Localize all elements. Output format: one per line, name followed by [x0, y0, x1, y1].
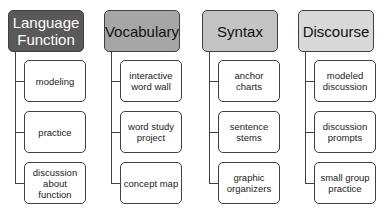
connector-branch: [305, 81, 314, 82]
connector-line: [15, 52, 16, 183]
child-node: concept map: [120, 162, 182, 204]
child-label: discussion about function: [27, 167, 83, 200]
child-node: discussion about function: [24, 162, 86, 204]
child-node: sentence stems: [218, 111, 280, 153]
child-label: sentence stems: [221, 121, 277, 143]
connector-branch: [15, 81, 24, 82]
parent-node: Vocabulary: [104, 10, 180, 52]
connector-branch: [209, 183, 218, 184]
child-label: anchor charts: [221, 70, 277, 92]
connector-branch: [305, 183, 314, 184]
connector-branch: [111, 183, 120, 184]
connector-branch: [111, 81, 120, 82]
parent-node: Discourse: [298, 10, 374, 52]
connector-branch: [15, 183, 24, 184]
column-syntax: Syntax anchor charts sentence stems grap…: [194, 0, 290, 214]
child-label: modeled discussion: [317, 70, 373, 92]
column-discourse: Discourse modeled discussion discussion …: [290, 0, 386, 214]
parent-node: Language Function: [8, 10, 84, 52]
child-node: discussion prompts: [314, 111, 376, 153]
connector-line: [209, 52, 210, 183]
child-label: interactive word wall: [123, 70, 179, 92]
connector-line: [111, 52, 112, 183]
connector-branch: [111, 132, 120, 133]
child-node: modeled discussion: [314, 60, 376, 102]
child-label: concept map: [124, 178, 178, 189]
connector-branch: [305, 132, 314, 133]
column-vocabulary: Vocabulary interactive word wall word st…: [96, 0, 192, 214]
child-node: modeling: [24, 60, 86, 102]
child-label: modeling: [36, 76, 75, 87]
connector-branch: [209, 132, 218, 133]
parent-label: Vocabulary: [105, 23, 179, 40]
child-label: graphic organizers: [221, 172, 277, 194]
child-node: small group practice: [314, 162, 376, 204]
child-label: practice: [38, 127, 71, 138]
child-node: anchor charts: [218, 60, 280, 102]
parent-label: Syntax: [217, 23, 263, 40]
child-node: practice: [24, 111, 86, 153]
child-label: small group practice: [317, 172, 373, 194]
connector-branch: [209, 81, 218, 82]
parent-node: Syntax: [202, 10, 278, 52]
child-label: discussion prompts: [317, 121, 373, 143]
parent-label: Discourse: [303, 23, 370, 40]
column-language-function: Language Function modeling practice disc…: [0, 0, 96, 214]
connector-branch: [15, 132, 24, 133]
connector-line: [305, 52, 306, 183]
child-node: graphic organizers: [218, 162, 280, 204]
child-label: word study project: [123, 121, 179, 143]
parent-label: Language Function: [9, 14, 83, 48]
child-node: interactive word wall: [120, 60, 182, 102]
child-node: word study project: [120, 111, 182, 153]
